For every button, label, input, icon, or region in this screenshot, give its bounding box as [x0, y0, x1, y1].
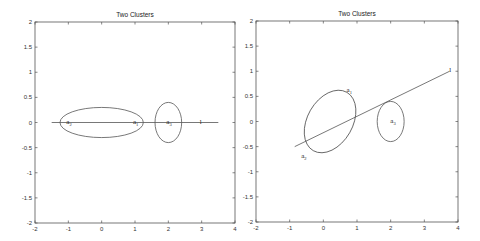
y-tick-label: 1	[250, 68, 254, 74]
chart-panel-2: Two Clusters-2-10123421.510.50-0.5-1-1.5…	[243, 10, 461, 231]
x-tick-label: 4	[456, 225, 460, 231]
annotation-a3: a3	[390, 117, 396, 126]
annotation-a2: a2	[301, 152, 306, 161]
x-tick-label: 3	[200, 226, 204, 232]
y-tick-label: 1	[29, 69, 33, 75]
y-tick-label: -1	[248, 169, 254, 175]
x-tick-label: 4	[233, 226, 237, 232]
x-tick-label: 3	[423, 225, 427, 231]
y-tick-label: 1.5	[24, 44, 33, 50]
y-tick-label: -1.5	[22, 195, 33, 201]
y-tick-label: 0.5	[245, 93, 254, 99]
annotation-a1: a1	[133, 118, 138, 127]
x-tick-label: -1	[287, 225, 293, 231]
y-tick-label: 0	[29, 120, 33, 126]
y-tick-label: 0	[250, 119, 254, 125]
line-l	[295, 71, 450, 146]
x-tick-label: 2	[389, 225, 393, 231]
x-tick-label: 0	[322, 225, 326, 231]
y-tick-label: 1.5	[245, 43, 254, 49]
axis-frame	[256, 21, 458, 222]
y-tick-label: 2	[29, 19, 33, 25]
two-cluster-charts: Two Clusters-2-10123421.510.50-0.5-1-1.5…	[0, 0, 480, 241]
y-tick-label: -1	[27, 170, 33, 176]
chart-title: Two Clusters	[338, 10, 376, 17]
x-tick-label: 1	[133, 226, 137, 232]
y-tick-label: -2	[248, 219, 254, 225]
x-tick-label: 0	[100, 226, 104, 232]
x-tick-label: -1	[66, 226, 72, 232]
chart-panel-1: Two Clusters-2-10123421.510.50-0.5-1-1.5…	[22, 11, 238, 232]
y-tick-label: 0.5	[24, 94, 33, 100]
x-tick-label: 2	[167, 226, 171, 232]
annotation-l: l	[200, 118, 202, 126]
annotation-a2: a2	[66, 118, 71, 127]
annotation-a3: a3	[166, 118, 172, 127]
cluster-1-ellipse	[294, 81, 367, 162]
x-tick-label: -2	[32, 226, 38, 232]
annotation-l: l	[449, 66, 451, 74]
y-tick-label: -0.5	[243, 144, 254, 150]
y-tick-label: -1.5	[243, 194, 254, 200]
y-tick-label: 2	[250, 18, 254, 24]
y-tick-label: -0.5	[22, 145, 33, 151]
chart-title: Two Clusters	[116, 11, 154, 18]
x-tick-label: 1	[355, 225, 359, 231]
y-tick-label: -2	[27, 220, 33, 226]
annotation-a1: a1	[347, 86, 352, 95]
x-tick-label: -2	[253, 225, 259, 231]
